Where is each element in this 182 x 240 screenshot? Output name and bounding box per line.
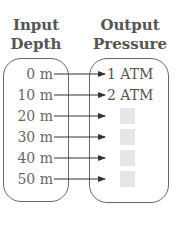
- output-value-0: 1 ATM: [107, 66, 153, 82]
- input-value-0: 0 m: [26, 66, 53, 82]
- output-blank-4: [120, 150, 135, 166]
- output-value-1: 2 ATM: [107, 87, 153, 103]
- input-value-2: 20 m: [17, 108, 53, 124]
- input-value-5: 50 m: [17, 171, 53, 187]
- output-blank-5: [120, 171, 135, 187]
- input-value-1: 10 m: [17, 87, 53, 103]
- output-blank-2: [120, 108, 135, 124]
- output-blank-3: [120, 129, 135, 145]
- input-value-3: 30 m: [17, 129, 53, 145]
- input-value-4: 40 m: [17, 150, 53, 166]
